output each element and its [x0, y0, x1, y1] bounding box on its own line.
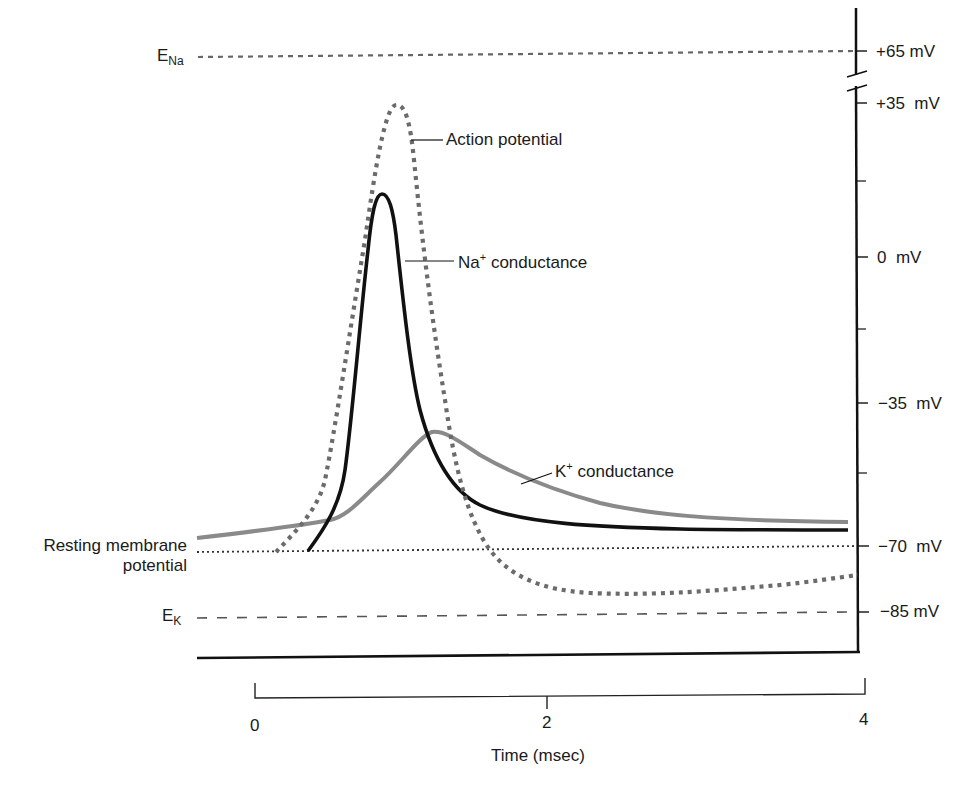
e-na-label-sub: Na	[168, 54, 183, 68]
resting-potential-label: Resting membrane potential	[14, 545, 187, 574]
x-axis-title: Time (msec)	[491, 747, 585, 764]
k-conductance-label: K+ conductance	[555, 461, 674, 480]
resting-potential-line	[197, 546, 856, 552]
action-potential-figure	[0, 0, 963, 787]
y-label-minus85: −85 mV	[880, 603, 939, 620]
na-label-rest: conductance	[486, 253, 587, 272]
x-label-4: 4	[859, 711, 868, 728]
e-na-line	[198, 51, 854, 57]
k-label-rest: conductance	[573, 462, 674, 481]
e-na-label-main: E	[157, 46, 168, 65]
resting-label-line2: potential	[14, 557, 187, 574]
action-potential-label: Action potential	[446, 131, 562, 148]
e-k-line	[197, 612, 852, 618]
na-label-main: Na	[458, 253, 480, 272]
e-k-label: EK	[162, 607, 181, 627]
bottom-frame-line	[197, 652, 860, 658]
time-axis	[255, 678, 865, 709]
y-label-plus65: +65 mV	[876, 43, 935, 60]
y-label-plus35: +35 mV	[876, 95, 940, 112]
e-k-label-main: E	[162, 606, 173, 625]
y-axis	[847, 8, 869, 651]
e-na-label: ENa	[157, 47, 184, 67]
k-label-main: K	[555, 462, 566, 481]
x-label-2: 2	[542, 714, 551, 731]
y-label-minus35: −35 mV	[878, 395, 942, 412]
x-label-0: 0	[250, 717, 259, 734]
resting-label-line1: Resting membrane	[14, 537, 187, 554]
k-conductance-curve	[197, 432, 848, 538]
na-conductance-label: Na+ conductance	[458, 252, 587, 271]
y-label-zero: 0 mV	[877, 249, 921, 266]
e-k-label-sub: K	[173, 614, 181, 628]
y-label-minus70: −70 mV	[878, 538, 942, 555]
